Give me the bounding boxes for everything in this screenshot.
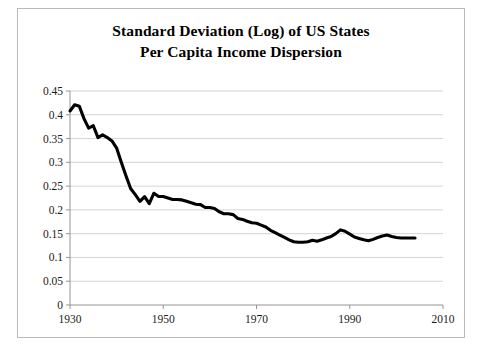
y-tick-label: 0.4	[49, 109, 64, 121]
y-tick-label: 0	[57, 299, 63, 311]
y-tick-label: 0.35	[43, 133, 63, 145]
x-axis-labels: 19301950197019902010	[59, 313, 455, 325]
y-tick-label: 0.45	[43, 85, 63, 97]
figure-container: Standard Deviation (Log) of US States Pe…	[0, 0, 490, 349]
y-tick-label: 0.05	[43, 275, 63, 287]
data-series-line	[70, 105, 415, 242]
y-tick-label: 0.2	[49, 204, 64, 216]
x-tick-label: 1930	[59, 313, 82, 325]
y-tick-label: 0.25	[43, 180, 63, 192]
y-tick-label: 0.1	[49, 251, 64, 263]
tick-marks-group	[66, 91, 443, 309]
x-tick-label: 1970	[245, 313, 268, 325]
chart-plot: 0.450.40.350.30.250.20.150.10.050 193019…	[0, 0, 490, 349]
x-tick-label: 1990	[338, 313, 361, 325]
y-axis-labels: 0.450.40.350.30.250.20.150.10.050	[43, 85, 63, 311]
y-tick-label: 0.15	[43, 228, 63, 240]
x-tick-label: 2010	[432, 313, 455, 325]
x-tick-label: 1950	[152, 313, 175, 325]
gridlines-group	[70, 91, 443, 305]
y-tick-label: 0.3	[49, 156, 64, 168]
